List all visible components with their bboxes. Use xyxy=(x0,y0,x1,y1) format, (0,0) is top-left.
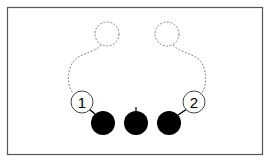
ghost-ball-right xyxy=(155,22,179,46)
solid-ball-right xyxy=(157,111,181,135)
ghost-ball-left xyxy=(95,22,119,46)
numbered-ball-1: 1 xyxy=(71,91,93,113)
numbered-ball-2: 2 xyxy=(183,91,205,113)
solid-ball-left xyxy=(91,111,115,135)
newtons-cradle-diagram: 1 2 xyxy=(0,0,266,161)
ball-label-2: 2 xyxy=(190,94,198,111)
solid-ball-center xyxy=(124,111,148,135)
ball-label-1: 1 xyxy=(78,94,86,111)
